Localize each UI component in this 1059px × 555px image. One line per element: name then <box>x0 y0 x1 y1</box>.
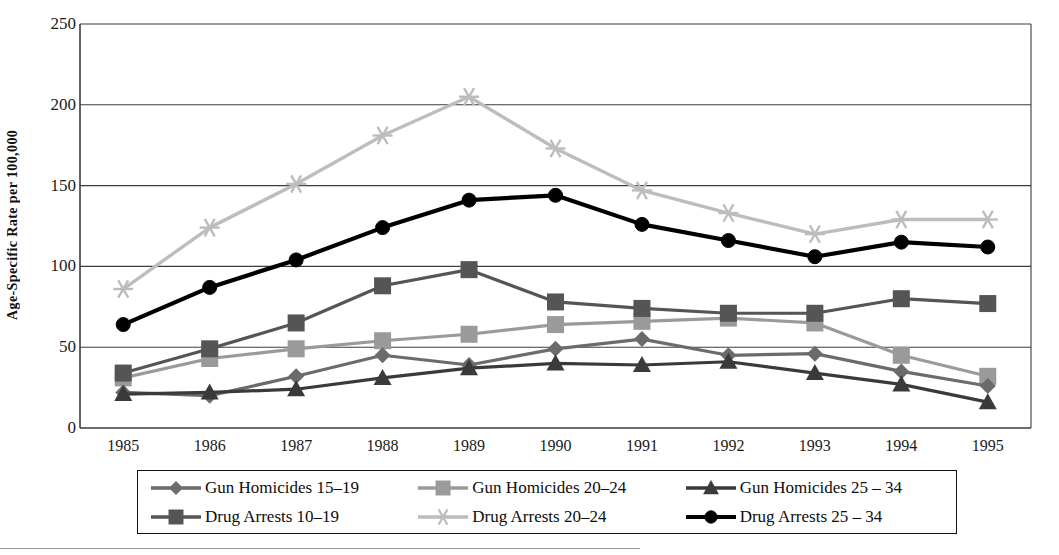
square-marker <box>288 340 305 357</box>
marker-square <box>288 340 305 357</box>
diamond-marker <box>634 331 650 347</box>
legend-item-6[interactable]: Drug Arrests 25 – 34 <box>683 507 950 527</box>
marker-circle <box>894 235 908 249</box>
square-marker <box>633 300 650 317</box>
marker-star <box>718 204 738 221</box>
marker-square <box>979 295 996 312</box>
marker-square <box>374 277 391 294</box>
marker-circle <box>462 193 476 207</box>
legend-item-1[interactable]: Gun Homicides 15–19 <box>148 478 415 498</box>
circle-marker <box>635 217 649 231</box>
diamond-marker <box>807 346 823 362</box>
legend-label: Gun Homicides 25 – 34 <box>740 479 902 496</box>
chart-figure: Age-Specific Rate per 100,000 2502001501… <box>0 0 1059 555</box>
marker-circle <box>721 234 735 248</box>
marker-square <box>893 290 910 307</box>
marker-star <box>891 211 911 228</box>
square-marker <box>436 480 451 495</box>
legend-label: Drug Arrests 25 – 34 <box>740 508 883 525</box>
legend-label: Drug Arrests 10–19 <box>205 508 339 525</box>
legend-item-4[interactable]: Drug Arrests 10–19 <box>148 507 415 527</box>
legend-square-icon <box>415 478 471 498</box>
circle-marker <box>462 193 476 207</box>
marker-square <box>806 305 823 322</box>
marker-square <box>115 365 132 382</box>
legend-triangle-icon <box>683 478 739 498</box>
marker-star <box>435 509 453 524</box>
x-tick-1995: 1995 <box>972 437 1004 455</box>
circle-marker <box>116 318 130 332</box>
circle-marker <box>894 235 908 249</box>
marker-star <box>632 182 652 199</box>
square-marker <box>374 277 391 294</box>
marker-star <box>373 127 393 144</box>
plot-area <box>0 0 1059 470</box>
marker-diamond <box>169 480 183 494</box>
square-marker <box>893 290 910 307</box>
legend-marker-svg <box>148 478 204 498</box>
circle-marker <box>203 280 217 294</box>
page-rule <box>0 548 640 549</box>
marker-square <box>201 340 218 357</box>
marker-diamond <box>375 347 391 363</box>
marker-circle <box>808 250 822 264</box>
legend-item-2[interactable]: Gun Homicides 20–24 <box>415 478 682 498</box>
legend-circle-icon <box>683 507 739 527</box>
circle-marker <box>376 221 390 235</box>
circle-marker <box>808 250 822 264</box>
x-tick-1992: 1992 <box>712 437 744 455</box>
marker-square <box>633 300 650 317</box>
legend-label: Gun Homicides 20–24 <box>472 479 626 496</box>
square-marker <box>547 316 564 333</box>
marker-circle <box>981 240 995 254</box>
legend-label: Gun Homicides 15–19 <box>205 479 359 496</box>
legend-item-5[interactable]: Drug Arrests 20–24 <box>415 507 682 527</box>
marker-star <box>978 211 998 228</box>
marker-square <box>374 332 391 349</box>
legend-marker-svg <box>683 507 739 527</box>
marker-square <box>547 316 564 333</box>
marker-diamond <box>807 346 823 362</box>
x-tick-1989: 1989 <box>453 437 485 455</box>
legend-diamond-icon <box>148 478 204 498</box>
marker-circle <box>704 510 716 522</box>
square-marker <box>169 509 184 524</box>
x-tick-1985: 1985 <box>107 437 139 455</box>
marker-square <box>720 305 737 322</box>
square-marker <box>461 261 478 278</box>
square-marker <box>979 295 996 312</box>
legend-marker-svg <box>683 478 739 498</box>
marker-square <box>461 261 478 278</box>
marker-circle <box>203 280 217 294</box>
square-marker <box>288 314 305 331</box>
legend-item-3[interactable]: Gun Homicides 25 – 34 <box>683 478 950 498</box>
marker-circle <box>635 217 649 231</box>
chart-legend: Gun Homicides 15–19Gun Homicides 20–24Gu… <box>137 470 957 534</box>
marker-square <box>547 293 564 310</box>
legend-marker-svg <box>415 478 471 498</box>
legend-label: Drug Arrests 20–24 <box>472 508 606 525</box>
legend-square-icon <box>148 507 204 527</box>
circle-marker <box>289 253 303 267</box>
square-marker <box>806 305 823 322</box>
circle-marker <box>721 234 735 248</box>
x-tick-1993: 1993 <box>799 437 831 455</box>
marker-square <box>169 509 184 524</box>
diamond-marker <box>169 480 183 494</box>
circle-marker <box>981 240 995 254</box>
circle-marker <box>704 510 716 522</box>
square-marker <box>547 293 564 310</box>
x-tick-1994: 1994 <box>885 437 917 455</box>
marker-star <box>805 225 825 242</box>
marker-circle <box>376 221 390 235</box>
square-marker <box>115 365 132 382</box>
square-marker <box>374 332 391 349</box>
marker-circle <box>549 188 563 202</box>
x-tick-1988: 1988 <box>367 437 399 455</box>
square-marker <box>461 326 478 343</box>
square-marker <box>893 347 910 364</box>
marker-square <box>893 347 910 364</box>
series-3 <box>114 353 997 409</box>
square-marker <box>720 305 737 322</box>
diamond-marker <box>375 347 391 363</box>
